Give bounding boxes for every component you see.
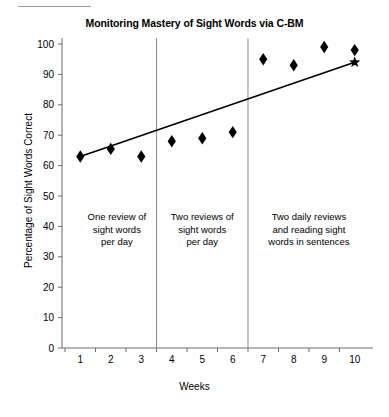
svg-text:4: 4 bbox=[169, 354, 175, 365]
phase-labels: One review ofsight wordsper dayTwo revie… bbox=[88, 211, 350, 247]
axis-lines bbox=[62, 38, 373, 348]
trend-line bbox=[80, 62, 354, 156]
svg-text:sight words: sight words bbox=[93, 224, 141, 235]
svg-text:90: 90 bbox=[43, 69, 55, 80]
svg-text:40: 40 bbox=[43, 221, 55, 232]
svg-text:8: 8 bbox=[291, 354, 297, 365]
phase-change-lines bbox=[157, 38, 248, 348]
goal-star-marker bbox=[349, 56, 360, 67]
svg-text:Two daily reviews: Two daily reviews bbox=[272, 211, 347, 222]
svg-text:80: 80 bbox=[43, 99, 55, 110]
svg-text:Two reviews of: Two reviews of bbox=[171, 211, 234, 222]
svg-text:9: 9 bbox=[321, 354, 327, 365]
svg-text:100: 100 bbox=[37, 39, 54, 50]
svg-text:2: 2 bbox=[108, 354, 114, 365]
svg-text:70: 70 bbox=[43, 130, 55, 141]
svg-text:words in sentences: words in sentences bbox=[267, 236, 350, 247]
chart-plot-area: 0102030405060708090100 12345678910 One r… bbox=[0, 0, 389, 417]
svg-text:6: 6 bbox=[230, 354, 236, 365]
svg-text:20: 20 bbox=[43, 282, 55, 293]
svg-text:sight words: sight words bbox=[178, 224, 226, 235]
svg-text:3: 3 bbox=[138, 354, 144, 365]
data-markers bbox=[76, 41, 359, 163]
svg-text:One review of: One review of bbox=[88, 211, 147, 222]
svg-text:and reading sight: and reading sight bbox=[273, 224, 346, 235]
y-axis-ticks: 0102030405060708090100 bbox=[37, 39, 62, 354]
svg-text:0: 0 bbox=[48, 343, 54, 354]
svg-text:per day: per day bbox=[101, 236, 133, 247]
svg-text:7: 7 bbox=[260, 354, 266, 365]
svg-text:10: 10 bbox=[43, 312, 55, 323]
svg-text:50: 50 bbox=[43, 191, 55, 202]
x-axis-ticks: 12345678910 bbox=[65, 348, 361, 365]
svg-text:30: 30 bbox=[43, 251, 55, 262]
svg-text:10: 10 bbox=[349, 354, 361, 365]
chart-container: Monitoring Mastery of Sight Words via C-… bbox=[0, 0, 389, 417]
svg-text:5: 5 bbox=[199, 354, 205, 365]
svg-text:60: 60 bbox=[43, 160, 55, 171]
svg-text:per day: per day bbox=[186, 236, 218, 247]
svg-text:1: 1 bbox=[78, 354, 84, 365]
